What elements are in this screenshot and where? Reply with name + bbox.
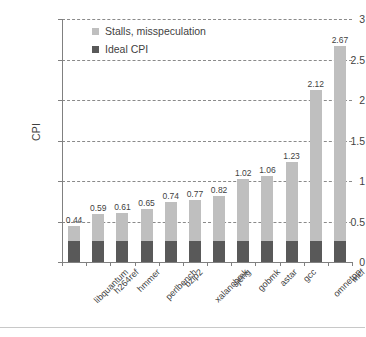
x-axis-tick-mark	[183, 262, 184, 266]
chart-legend: Stalls, misspeculation Ideal CPI	[92, 22, 206, 58]
x-axis-label-gcc: gcc	[301, 267, 318, 284]
bar-value-label: 0.61	[114, 202, 131, 212]
legend-item-ideal-cpi: Ideal CPI	[92, 40, 206, 58]
x-axis-tick-mark	[207, 262, 208, 266]
bar-segment-stalls	[92, 214, 104, 241]
bar-segment-ideal-cpi	[334, 241, 346, 262]
bar-segment-ideal-cpi	[189, 241, 201, 262]
bar-segment-stalls	[189, 200, 201, 241]
x-axis-tick-mark	[255, 262, 256, 266]
bar-segment-stalls	[116, 213, 128, 241]
bar-segment-ideal-cpi	[286, 241, 298, 262]
gridline	[62, 100, 352, 101]
bar-value-label: 0.44	[66, 215, 83, 225]
x-axis-label-sjeng: sjeng	[230, 267, 252, 289]
bar-sjeng[interactable]: 0.82	[213, 196, 225, 262]
bar-gobmk[interactable]: 1.02	[237, 179, 249, 262]
y-axis-title: CPI	[30, 102, 42, 162]
bar-segment-ideal-cpi	[310, 241, 322, 262]
bar-value-label: 2.67	[332, 35, 349, 45]
bar-value-label: 0.82	[211, 185, 228, 195]
x-axis-tick-mark	[62, 262, 63, 266]
gridline	[62, 181, 352, 182]
legend-label-stalls: Stalls, misspeculation	[105, 25, 206, 37]
bar-hmmer[interactable]: 0.61	[116, 213, 128, 262]
bar-value-label: 0.77	[187, 189, 204, 199]
bar-segment-stalls	[261, 176, 273, 241]
bar-value-label: 0.74	[162, 191, 179, 201]
gridline	[62, 19, 352, 20]
bar-segment-ideal-cpi	[116, 241, 128, 262]
x-axis-tick-mark	[159, 262, 160, 266]
x-axis-tick-mark	[231, 262, 232, 266]
bar-value-label: 0.65	[138, 198, 155, 208]
bar-h264ref[interactable]: 0.59	[92, 214, 104, 262]
x-axis-tick-mark	[135, 262, 136, 266]
x-axis-label-bzip2: bzip2	[182, 267, 204, 289]
bottom-divider	[0, 327, 365, 328]
x-axis-tick-mark	[304, 262, 305, 266]
bar-segment-ideal-cpi	[237, 241, 249, 262]
bar-value-label: 1.02	[235, 168, 252, 178]
bar-segment-ideal-cpi	[261, 241, 273, 262]
bar-xalancbmk[interactable]: 0.77	[189, 200, 201, 262]
bar-bzip2[interactable]: 0.74	[165, 202, 177, 262]
bar-value-label: 2.12	[307, 79, 324, 89]
bar-value-label: 1.23	[283, 151, 300, 161]
gridline	[62, 222, 352, 223]
bar-segment-stalls	[68, 226, 80, 241]
bar-perlbench[interactable]: 0.65	[141, 209, 153, 262]
x-axis-label-astar: astar	[278, 267, 299, 288]
bar-astar[interactable]: 1.06	[261, 176, 273, 262]
gridline	[62, 60, 352, 61]
bar-segment-stalls	[165, 202, 177, 241]
legend-item-stalls: Stalls, misspeculation	[92, 22, 206, 40]
x-axis-tick-mark	[328, 262, 329, 266]
gridline	[62, 141, 352, 142]
x-axis-label-hmmer: hmmer	[136, 267, 163, 294]
bar-libquantum[interactable]: 0.44	[68, 226, 80, 262]
legend-swatch-stalls-icon	[92, 28, 99, 35]
bar-gcc[interactable]: 1.23	[286, 162, 298, 262]
bar-segment-ideal-cpi	[68, 241, 80, 262]
bar-segment-stalls	[141, 209, 153, 241]
legend-swatch-ideal-cpi-icon	[92, 46, 99, 53]
bar-mcf[interactable]: 2.67	[334, 46, 346, 262]
x-axis-tick-mark	[86, 262, 87, 266]
bar-segment-stalls	[310, 90, 322, 241]
bar-value-label: 0.59	[90, 203, 107, 213]
legend-label-ideal-cpi: Ideal CPI	[105, 43, 148, 55]
bar-segment-ideal-cpi	[213, 241, 225, 262]
bar-segment-stalls	[237, 179, 249, 241]
y-axis-line	[62, 19, 63, 262]
bar-segment-stalls	[334, 46, 346, 241]
bar-segment-ideal-cpi	[165, 241, 177, 262]
bar-segment-ideal-cpi	[92, 241, 104, 262]
bar-segment-stalls	[213, 196, 225, 241]
x-axis-tick-mark	[352, 262, 353, 266]
x-axis-tick-mark	[110, 262, 111, 266]
bar-segment-ideal-cpi	[141, 241, 153, 262]
bar-value-label: 1.06	[259, 165, 276, 175]
bar-omnetpp[interactable]: 2.12	[310, 90, 322, 262]
x-axis-tick-mark	[280, 262, 281, 266]
bar-segment-stalls	[286, 162, 298, 241]
